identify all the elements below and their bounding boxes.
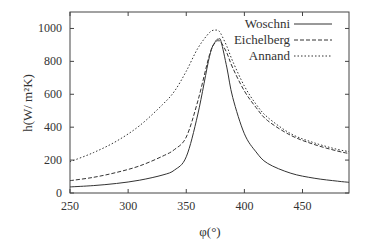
series-annand [70,30,349,162]
y-axis-label: h(W/ m²K) [20,74,35,132]
plot-lines [70,30,349,187]
x-tick-label: 450 [294,199,312,213]
plot-frame [70,12,349,193]
y-tick-label: 800 [44,54,62,68]
legend: WoschniEichelbergAnnand [234,16,332,63]
legend-label: Woschni [245,16,291,31]
series-eichelberg [70,41,349,181]
series-woschni [70,39,349,187]
y-axis-ticks: 02004006008001000 [38,21,349,200]
x-tick-label: 250 [61,199,79,213]
y-tick-label: 0 [56,186,62,200]
legend-label: Eichelberg [234,32,291,47]
chart: 02004006008001000 250300350400450 Woschn… [0,0,371,248]
legend-label: Annand [249,48,291,63]
y-tick-label: 1000 [38,21,62,35]
x-tick-label: 400 [235,199,253,213]
x-tick-label: 300 [119,199,137,213]
y-tick-label: 200 [44,153,62,167]
x-tick-label: 350 [177,199,195,213]
y-tick-label: 600 [44,87,62,101]
y-tick-label: 400 [44,120,62,134]
x-axis-label: φ(°) [199,224,220,239]
